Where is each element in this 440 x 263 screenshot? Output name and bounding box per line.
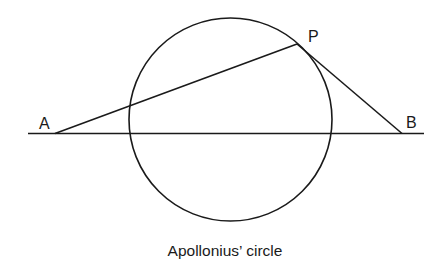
segment-pb [297, 44, 402, 134]
point-a-label: A [39, 115, 50, 132]
apollonius-diagram: A P B Apollonius’ circle [0, 0, 440, 263]
segment-ap [55, 44, 297, 134]
point-p-label: P [308, 28, 319, 45]
point-b-label: B [406, 114, 417, 131]
caption: Apollonius’ circle [168, 242, 283, 259]
